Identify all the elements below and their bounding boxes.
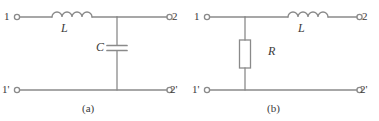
terminal-circle-1 xyxy=(14,14,19,19)
terminal-label-1: 1 xyxy=(4,11,10,22)
caption-b: (b) xyxy=(267,103,280,114)
terminal-label-1-prime: 1' xyxy=(2,84,9,95)
schematic-a xyxy=(0,0,189,121)
inductor-label-a: L xyxy=(61,22,68,34)
terminal-label-2-prime: 2' xyxy=(170,84,177,95)
capacitor-label-a: C xyxy=(96,41,104,53)
circuit-diagram-a: 1 2 1' 2' L C (a) xyxy=(0,0,189,121)
terminal-label-2: 2 xyxy=(172,11,178,22)
terminal-label-2-prime: 2' xyxy=(360,84,367,95)
inductor-coil-a xyxy=(52,12,92,17)
schematic-b xyxy=(190,0,379,121)
terminal-circle-1-prime xyxy=(204,87,209,92)
resistor-label-b: R xyxy=(268,45,275,57)
terminal-label-1: 1 xyxy=(194,11,200,22)
terminal-circle-1 xyxy=(204,14,209,19)
inductor-coil-b xyxy=(288,12,328,17)
two-port-network-figure: 1 2 1' 2' L C (a) xyxy=(0,0,379,121)
resistor-box-b xyxy=(240,40,251,68)
circuit-diagram-b: 1 2 1' 2' L R (b) xyxy=(190,0,379,121)
caption-a: (a) xyxy=(82,103,94,114)
terminal-label-1-prime: 1' xyxy=(192,84,199,95)
terminal-label-2: 2 xyxy=(362,11,368,22)
inductor-label-b: L xyxy=(298,22,305,34)
terminal-circle-1-prime xyxy=(14,87,19,92)
